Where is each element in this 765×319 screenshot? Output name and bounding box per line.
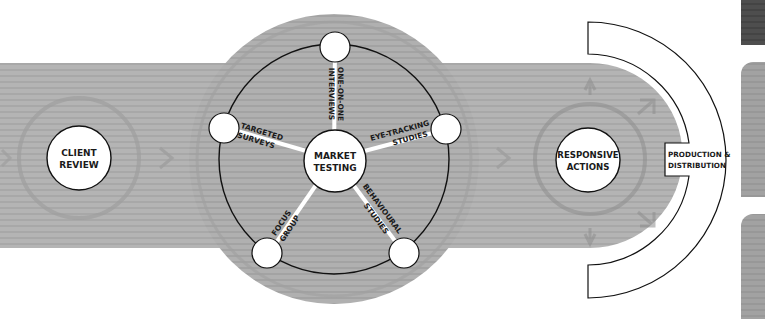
method-node-behavioural-studies bbox=[389, 238, 419, 268]
stage-node-client-review: CLIENT REVIEW bbox=[47, 126, 111, 190]
market-testing-process-diagram: ONE-ON-ONE INTERVIEWS EYE-TRACKING STUDI… bbox=[0, 0, 765, 319]
method-node-targeted-surveys bbox=[209, 113, 239, 143]
svg-text:REVIEW: REVIEW bbox=[59, 160, 99, 170]
method-label-one-on-one-interviews: ONE-ON-ONE INTERVIEWS bbox=[327, 67, 345, 121]
svg-text:ACTIONS: ACTIONS bbox=[567, 162, 610, 172]
side-panel-bottom bbox=[741, 214, 765, 319]
method-node-focus-group bbox=[252, 238, 282, 268]
svg-text:INTERVIEWS: INTERVIEWS bbox=[327, 68, 336, 120]
svg-text:MARKET: MARKET bbox=[314, 151, 357, 161]
svg-text:TESTING: TESTING bbox=[313, 163, 356, 173]
svg-text:CLIENT: CLIENT bbox=[61, 148, 97, 158]
svg-text:RESPONSIVE: RESPONSIVE bbox=[557, 150, 619, 160]
svg-text:PRODUCTION &: PRODUCTION & bbox=[668, 150, 730, 159]
side-panel-middle bbox=[741, 62, 765, 197]
svg-text:DISTRIBUTION: DISTRIBUTION bbox=[668, 161, 726, 170]
stage-node-responsive-actions: RESPONSIVE ACTIONS bbox=[556, 128, 620, 192]
stage-node-market-testing: MARKET TESTING bbox=[304, 130, 366, 192]
method-node-eye-tracking-studies bbox=[431, 114, 461, 144]
svg-text:ONE-ON-ONE: ONE-ON-ONE bbox=[336, 67, 345, 121]
method-node-one-on-one-interviews bbox=[320, 32, 350, 62]
side-panel-dark bbox=[741, 0, 765, 45]
